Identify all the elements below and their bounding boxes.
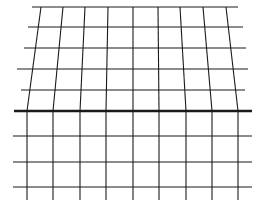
grid-line-converging: [27, 7, 41, 111]
grid-line-converging: [53, 7, 63, 111]
vertical-lines: [27, 7, 238, 200]
grid-line-converging: [80, 7, 85, 111]
grid-line-converging: [203, 7, 212, 111]
perspective-grid-diagram: [0, 0, 261, 208]
grid-line-converging: [106, 7, 108, 111]
grid-line-converging: [226, 7, 238, 111]
grid-line-converging: [180, 7, 186, 111]
grid-line-converging: [158, 7, 159, 111]
